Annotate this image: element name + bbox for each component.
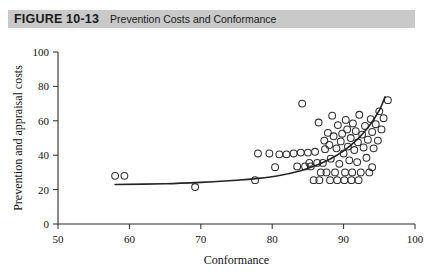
data-point [360, 144, 367, 151]
x-axis-ticks: 5060708090100 [53, 224, 424, 245]
data-point [378, 126, 385, 133]
data-point [380, 115, 387, 122]
data-point [266, 150, 273, 157]
data-point [372, 121, 379, 128]
figure-caption-bar: FIGURE 10-13 Prevention Costs and Confor… [8, 10, 415, 28]
figure-number-label: FIGURE 10-13 [14, 12, 99, 26]
data-point [352, 128, 359, 135]
data-point [336, 160, 343, 167]
data-point [370, 145, 377, 152]
x-tick-label: 50 [53, 233, 65, 245]
y-axis-ticks: 020406080100 [33, 46, 59, 230]
data-point [276, 151, 283, 158]
x-tick-label: 80 [267, 233, 279, 245]
data-point [283, 151, 290, 158]
data-point [305, 149, 312, 156]
data-point [342, 117, 349, 124]
y-tick-label: 100 [33, 46, 50, 58]
figure-page: FIGURE 10-13 Prevention Costs and Confor… [0, 0, 427, 278]
data-point [357, 169, 364, 176]
data-point [192, 184, 199, 191]
data-point [121, 172, 128, 179]
data-point [337, 138, 344, 145]
data-point [315, 119, 322, 126]
x-axis-title: Conformance [204, 253, 269, 267]
data-point [330, 133, 337, 140]
data-point [294, 163, 301, 170]
data-point [342, 169, 349, 176]
data-point [369, 129, 376, 136]
y-tick-label: 80 [38, 80, 50, 92]
x-tick-label: 70 [195, 233, 207, 245]
data-point [374, 137, 381, 144]
data-point [333, 145, 340, 152]
x-tick-label: 90 [338, 233, 350, 245]
x-tick-label: 100 [407, 233, 424, 245]
data-point [349, 169, 356, 176]
data-point [332, 169, 339, 176]
data-point [327, 177, 334, 184]
data-point [341, 177, 348, 184]
y-tick-label: 0 [44, 218, 50, 230]
data-point [322, 146, 329, 153]
data-point [347, 135, 354, 142]
data-point [363, 154, 370, 161]
data-point [348, 177, 355, 184]
data-point [384, 97, 391, 104]
data-point [351, 147, 358, 154]
data-point [329, 112, 336, 119]
data-point [312, 148, 319, 155]
data-point [334, 122, 341, 129]
data-point [272, 164, 279, 171]
data-point [355, 177, 362, 184]
data-point [349, 120, 356, 127]
data-point [297, 149, 304, 156]
data-point [334, 177, 341, 184]
data-point [354, 159, 361, 166]
y-tick-label: 20 [38, 184, 50, 196]
data-point [366, 169, 373, 176]
data-point [326, 141, 333, 148]
data-point [369, 164, 376, 171]
data-point [112, 172, 119, 179]
data-point [356, 111, 363, 118]
scatter-plot: 020406080100 5060708090100 Conformance P… [0, 28, 427, 278]
data-point [299, 100, 306, 107]
chart-canvas: 020406080100 5060708090100 Conformance P… [0, 28, 427, 278]
data-point [346, 157, 353, 164]
y-tick-label: 40 [38, 149, 50, 161]
data-points [112, 97, 392, 191]
data-point [344, 126, 351, 133]
data-point [255, 150, 262, 157]
data-point [290, 150, 297, 157]
y-tick-label: 60 [38, 115, 50, 127]
data-point [364, 136, 371, 143]
y-axis-title: Prevention and appraisal costs [11, 65, 25, 211]
x-tick-label: 60 [124, 233, 136, 245]
figure-title: Prevention Costs and Conformance [110, 13, 276, 25]
